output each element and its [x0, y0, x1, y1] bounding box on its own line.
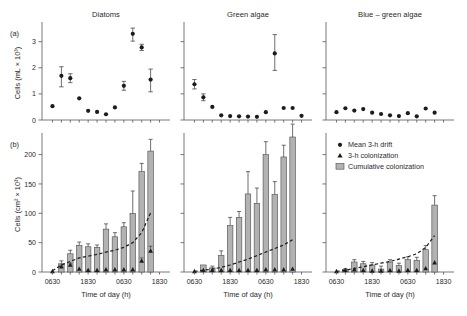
legend-label-0: Mean 3-h drift	[348, 140, 392, 149]
x-axis-label-2: Time of day (h)	[365, 290, 414, 299]
legend: Mean 3-h drift3-h colonizationCumulative…	[336, 140, 424, 171]
data-point	[246, 115, 250, 119]
cumulative-drift-line-0	[52, 213, 150, 271]
panel-a-0: Diatoms0123	[32, 10, 170, 124]
panel-title-2: Blue – green algae	[358, 10, 422, 19]
legend-marker-triangle	[337, 153, 342, 158]
x-ticklabel-b-0-2: 0630	[116, 278, 132, 285]
data-point	[131, 32, 135, 36]
x-ticklabel-b-2-2: 0630	[400, 278, 416, 285]
series-cumulative-colonization-b-1	[201, 124, 296, 272]
data-point	[95, 110, 99, 114]
data-point	[291, 106, 295, 110]
data-point	[424, 106, 428, 110]
legend-label-1: 3-h colonization	[348, 151, 398, 160]
figure-container: Diatoms0123Green algaeBlue – green algae…	[0, 0, 467, 316]
panel-b-1: 0630183006301830Time of day (h)	[181, 124, 313, 299]
data-point	[299, 114, 303, 118]
panel-a-1: Green algae	[181, 10, 313, 123]
y-axis-label-a: Cells (mL × 10³)	[13, 47, 22, 100]
data-point	[264, 110, 268, 114]
y-ticklabel-a-0: 0	[32, 117, 36, 124]
panel-b-0: 0501001502000630183006301830Time of day …	[24, 133, 170, 299]
legend-marker-bar	[336, 164, 344, 170]
data-point	[68, 76, 72, 80]
x-ticklabel-b-2-0: 0630	[329, 278, 345, 285]
x-ticklabel-b-0-3: 1830	[152, 278, 168, 285]
data-point	[282, 106, 286, 110]
data-point	[228, 114, 232, 118]
data-point	[104, 112, 108, 116]
series-mean-drift-a-2	[334, 106, 436, 118]
x-ticklabel-b-1-1: 1830	[222, 278, 238, 285]
series-cumulative-colonization-b-2	[343, 196, 438, 272]
legend-marker-circle	[338, 143, 342, 147]
legend-label-2: Cumulative colonization	[348, 162, 424, 171]
y-ticklabel-b-1: 50	[28, 239, 36, 246]
x-ticklabel-b-1-0: 0630	[187, 278, 203, 285]
series-mean-drift-a-0	[50, 28, 152, 116]
data-point	[50, 104, 54, 108]
data-point	[237, 114, 241, 118]
bar	[272, 195, 278, 272]
bar	[121, 227, 127, 272]
data-point	[433, 111, 437, 115]
y-ticklabel-a-3: 3	[32, 38, 36, 45]
data-point	[77, 96, 81, 100]
bar	[139, 172, 145, 272]
bar	[290, 137, 296, 272]
data-point	[415, 114, 419, 118]
cumulative-drift-line-2	[336, 236, 434, 272]
data-point	[210, 105, 214, 109]
x-ticklabel-b-0-0: 0630	[45, 278, 61, 285]
data-point	[140, 45, 144, 49]
data-point	[406, 111, 410, 115]
y-axis-label-b: Cells (cm² × 10³)	[13, 177, 22, 232]
data-point	[370, 111, 374, 115]
x-ticklabel-b-1-2: 0630	[258, 278, 274, 285]
data-point	[361, 107, 365, 111]
y-ticklabel-b-3: 150	[24, 181, 36, 188]
series-3h-colonization-b-0	[50, 246, 153, 273]
panel-title-0: Diatoms	[92, 10, 120, 19]
bar	[103, 229, 109, 272]
y-ticklabel-a-2: 2	[32, 64, 36, 71]
x-ticklabel-b-0-1: 1830	[80, 278, 96, 285]
data-point	[273, 51, 277, 55]
data-point	[149, 77, 153, 81]
x-axis-label-0: Time of day (h)	[81, 290, 130, 299]
data-point	[86, 109, 90, 113]
data-point	[343, 106, 347, 110]
data-point	[397, 114, 401, 118]
series-mean-drift-a-1	[192, 35, 303, 119]
data-point	[379, 112, 383, 116]
x-axis-label-1: Time of day (h)	[223, 290, 272, 299]
y-ticklabel-b-4: 200	[24, 151, 36, 158]
y-ticklabel-b-2: 100	[24, 210, 36, 217]
bar	[281, 157, 287, 272]
data-point	[334, 110, 338, 114]
data-point	[201, 95, 205, 99]
data-point	[59, 74, 63, 78]
panel-a-2: Blue – green algae	[323, 10, 455, 123]
panel-label-a: (a)	[10, 29, 19, 38]
y-ticklabel-a-1: 1	[32, 90, 36, 97]
x-ticklabel-b-2-1: 1830	[364, 278, 380, 285]
x-ticklabel-b-2-3: 1830	[436, 278, 452, 285]
bar	[254, 203, 260, 272]
data-point	[122, 84, 126, 88]
bar	[236, 217, 242, 272]
panel-title-1: Green algae	[227, 10, 269, 19]
multi-panel-chart: Diatoms0123Green algaeBlue – green algae…	[0, 0, 467, 316]
series-3h-colonization-b-2	[334, 260, 437, 273]
panel-label-b: (b)	[10, 140, 19, 149]
data-point	[352, 109, 356, 113]
data-point	[219, 113, 223, 117]
y-ticklabel-b-0: 0	[32, 269, 36, 276]
data-point	[255, 115, 259, 119]
bar	[112, 237, 118, 272]
bar	[148, 151, 154, 272]
cumulative-drift-line-1	[194, 240, 292, 272]
data-point	[388, 113, 392, 117]
data-point	[192, 82, 196, 86]
